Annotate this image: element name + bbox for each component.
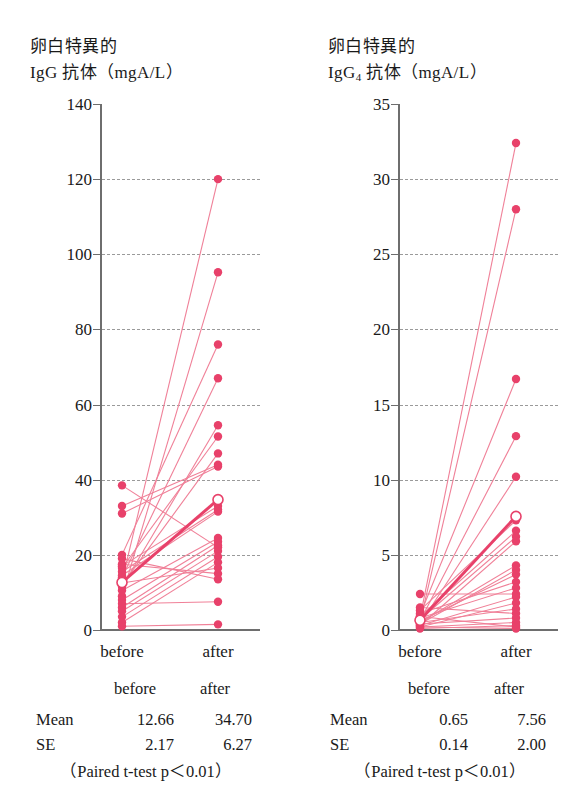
stats-header-before-igg4: before	[390, 676, 472, 707]
mean-marker-before	[415, 615, 425, 625]
stats-se-before-igg: 2.17	[96, 732, 178, 757]
pair-line	[420, 143, 516, 618]
pair-line	[122, 506, 218, 566]
point-after	[214, 421, 222, 429]
y-tick	[93, 480, 100, 481]
y-tick	[93, 405, 100, 406]
plot-area-igg: 020406080100120140 beforeafter	[100, 104, 260, 630]
pair-line	[420, 436, 516, 621]
y-tick	[391, 254, 398, 255]
y-tick	[93, 630, 100, 631]
point-after	[214, 432, 222, 440]
mean-marker-after	[511, 511, 521, 521]
x-tick-label-after: after	[202, 642, 233, 662]
stats-header-after-igg: after	[178, 676, 252, 707]
point-before	[118, 622, 126, 630]
y-tick-label: 60	[75, 396, 92, 413]
y-tick-label: 15	[373, 396, 390, 413]
stats-row-mean-igg: Mean 12.66 34.70	[36, 707, 252, 732]
y-tick-label: 0	[84, 622, 93, 639]
point-before	[416, 603, 424, 611]
point-after	[214, 507, 222, 515]
y-tick	[93, 329, 100, 330]
stats-mean-after-igg4: 7.56	[472, 707, 546, 732]
stats-mean-before-igg: 12.66	[96, 707, 178, 732]
y-tick	[93, 179, 100, 180]
stats-se-before-igg4: 0.14	[390, 732, 472, 757]
stats-header-after-igg4: after	[472, 676, 546, 707]
y-tick-label: 40	[75, 471, 92, 488]
point-after	[214, 449, 222, 457]
y-tick	[93, 104, 100, 105]
y-tick-label: 10	[373, 471, 390, 488]
stats-header-before-igg: before	[96, 676, 178, 707]
y-tick-label: 100	[67, 246, 93, 263]
y-tick	[391, 555, 398, 556]
y-tick-label: 20	[75, 546, 92, 563]
y-tick	[391, 480, 398, 481]
y-tick	[93, 254, 100, 255]
stats-ptest-igg4: （Paired t-test p＜0.01）	[330, 759, 546, 784]
panel-igg-title: 卵白特異的 IgG 抗体（mgA/L）	[30, 34, 183, 87]
point-before	[118, 509, 126, 517]
point-after	[214, 598, 222, 606]
stats-corner-igg	[36, 676, 96, 707]
y-tick	[391, 630, 398, 631]
mean-marker-before	[117, 577, 127, 587]
mean-line	[420, 516, 516, 620]
point-after	[512, 473, 520, 481]
panel-igg4-title-line2: IgG4 抗体（mgA/L）	[328, 60, 487, 87]
y-tick-label: 25	[373, 246, 390, 263]
y-tick	[391, 104, 398, 105]
point-after	[512, 584, 520, 592]
panel-igg4-title-line1: 卵白特異的	[328, 37, 415, 56]
data-layer-igg4	[398, 104, 558, 630]
stats-ptest-igg: （Paired t-test p＜0.01）	[36, 759, 252, 784]
point-after	[214, 340, 222, 348]
y-tick-label: 0	[382, 622, 391, 639]
panel-igg: 卵白特異的 IgG 抗体（mgA/L） 020406080100120140 b…	[0, 0, 300, 789]
stats-table-igg: before after Mean 12.66 34.70 SE 2.17 6.…	[36, 676, 252, 784]
point-after	[512, 375, 520, 383]
stats-corner-igg4	[330, 676, 390, 707]
y-tick-label: 80	[75, 321, 92, 338]
y-tick	[391, 329, 398, 330]
x-tick-label-after: after	[500, 642, 531, 662]
point-before	[118, 481, 126, 489]
panel-igg4-title: 卵白特異的 IgG4 抗体（mgA/L）	[328, 34, 487, 87]
pair-line	[122, 437, 218, 569]
point-after	[512, 537, 520, 545]
point-after	[512, 570, 520, 578]
y-tick-label: 20	[373, 321, 390, 338]
point-before	[118, 554, 126, 562]
point-after	[214, 268, 222, 276]
point-before	[416, 590, 424, 598]
panel-igg-title-line2: IgG 抗体（mgA/L）	[30, 60, 183, 87]
stats-row-mean-igg4: Mean 0.65 7.56	[330, 707, 546, 732]
figure-root: 卵白特異的 IgG 抗体（mgA/L） 020406080100120140 b…	[0, 0, 571, 789]
point-after	[512, 205, 520, 213]
stats-row-se-igg: SE 2.17 6.27	[36, 732, 252, 757]
y-tick-label: 140	[67, 96, 93, 113]
y-tick	[391, 405, 398, 406]
stats-se-after-igg4: 2.00	[472, 732, 546, 757]
point-before	[118, 600, 126, 608]
plot-area-igg4: 05101520253035 beforeafter	[398, 104, 558, 630]
mean-marker-after	[213, 495, 223, 505]
pair-line	[420, 477, 516, 624]
x-tick-label-before: before	[398, 642, 441, 662]
y-tick-label: 35	[373, 96, 390, 113]
y-tick-label: 120	[67, 171, 93, 188]
point-after	[214, 575, 222, 583]
data-layer-igg	[100, 104, 260, 630]
x-tick-label-before: before	[100, 642, 143, 662]
stats-mean-before-igg4: 0.65	[390, 707, 472, 732]
point-after	[512, 432, 520, 440]
point-after	[214, 462, 222, 470]
y-tick-label: 30	[373, 171, 390, 188]
stats-table-igg4: before after Mean 0.65 7.56 SE 0.14 2.00…	[330, 676, 546, 784]
stats-mean-label-igg4: Mean	[330, 707, 390, 732]
point-after	[512, 139, 520, 147]
panel-igg-title-line1: 卵白特異的	[30, 37, 117, 56]
stats-row-se-igg4: SE 0.14 2.00	[330, 732, 546, 757]
